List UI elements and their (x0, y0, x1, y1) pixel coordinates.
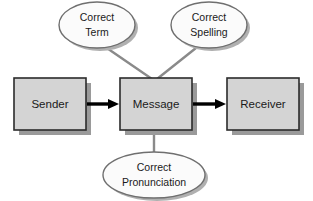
arrow-head-message-to-receiver (215, 99, 226, 109)
arrow-message-to-receiver (193, 99, 226, 109)
correct-spelling-label-line2: Spelling (190, 26, 228, 38)
arrow-head-sender-to-message (108, 99, 119, 109)
node-ellipse-correct-term[interactable]: Correct Term (59, 2, 138, 51)
diagram-canvas: Sender Message Receiver Correct Term (0, 0, 313, 201)
message-box-label: Message (133, 98, 180, 110)
connector-line-correct-spelling-to-message (157, 44, 201, 79)
node-ellipse-correct-pronunciation[interactable]: Correct Pronunciation (103, 152, 208, 201)
arrow-sender-to-message (87, 99, 119, 109)
correct-term-label-line1: Correct (80, 11, 115, 23)
correct-pronunciation-label-line2: Pronunciation (122, 176, 186, 188)
receiver-box-label: Receiver (240, 98, 286, 110)
node-ellipse-correct-spelling[interactable]: Correct Spelling (171, 2, 250, 51)
correct-pronunciation-label-line1: Correct (137, 161, 172, 173)
node-box-receiver[interactable]: Receiver (227, 78, 299, 130)
correct-spelling-label-line1: Correct (192, 11, 227, 23)
node-box-sender[interactable]: Sender (14, 78, 86, 130)
node-box-message[interactable]: Message (120, 78, 192, 130)
flow-diagram: Sender Message Receiver Correct Term (0, 0, 313, 201)
sender-box-label: Sender (31, 98, 68, 110)
correct-term-label-line2: Term (85, 26, 109, 38)
